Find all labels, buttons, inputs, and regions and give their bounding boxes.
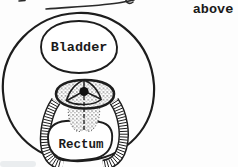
diagram-canvas: Bladder Rectum above — [0, 0, 238, 167]
cervical-os-dot — [79, 87, 88, 96]
hand-drawn-pelvic-diagram: Bladder Rectum above — [0, 0, 238, 167]
bladder-label: Bladder — [51, 40, 108, 55]
paper-smudge — [0, 161, 36, 167]
cropped-text-fragment — [19, 0, 134, 9]
above-annotation: above — [193, 2, 234, 17]
rectum-label: Rectum — [58, 138, 104, 152]
